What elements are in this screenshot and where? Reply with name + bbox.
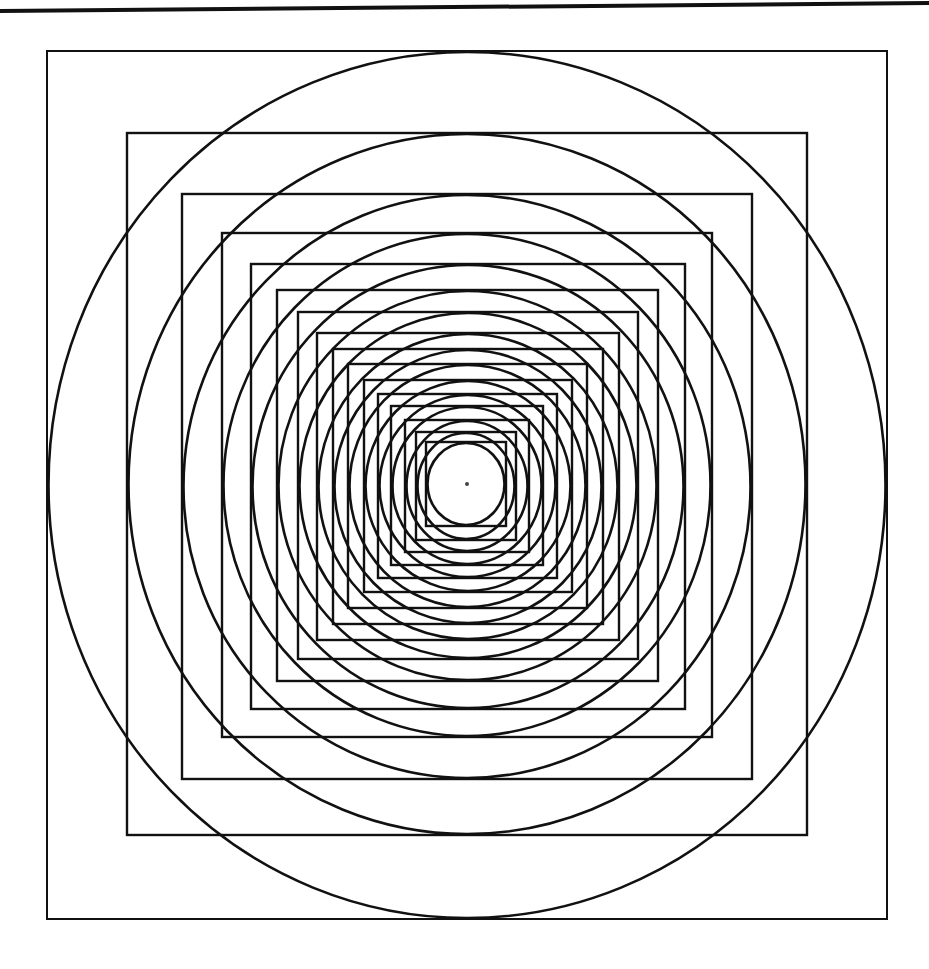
top-rule xyxy=(0,3,929,11)
center-dot-mark xyxy=(465,482,469,486)
circle-10 xyxy=(350,365,586,607)
circle-9 xyxy=(335,350,602,623)
square-3 xyxy=(182,194,752,779)
top-rule-line xyxy=(0,3,929,11)
circle-11 xyxy=(366,381,571,591)
circle-3 xyxy=(184,195,751,778)
center-dot xyxy=(465,482,469,486)
circle-15 xyxy=(418,433,515,539)
nested-squares-circles-drawing xyxy=(0,0,929,969)
